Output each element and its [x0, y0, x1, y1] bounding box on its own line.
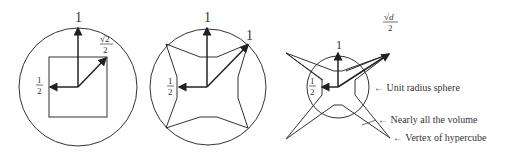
fig2-label-half-num: 1 — [168, 76, 173, 86]
fig1-label-diag-num: √2 — [100, 34, 109, 44]
annotation-vertex-of-hypercube: ← Vertex of hypercube — [393, 132, 487, 143]
diagram-svg: 1 √2 2 1 2 1 1 1 2 1 √d 2 1 2 ← Unit rad… — [0, 0, 518, 156]
fig1-label-top: 1 — [75, 10, 82, 25]
fig3-label-diag-den: 2 — [388, 23, 393, 33]
fig1-label-diag-den: 2 — [103, 45, 108, 55]
diagram-canvas: 1 √2 2 1 2 1 1 1 2 1 √d 2 1 2 ← Unit rad… — [0, 0, 518, 156]
fig3-label-half-num: 1 — [310, 76, 315, 86]
fig2-label-diag: 1 — [246, 28, 253, 43]
fig1-label-half-den: 2 — [37, 86, 42, 96]
fig1-label-half-num: 1 — [37, 75, 42, 85]
figure-hypercube-and-sphere — [286, 53, 390, 139]
annotation-nearly-all-volume: ← Nearly all the volume — [378, 114, 478, 125]
fig2-label-half-den: 2 — [168, 87, 173, 97]
fig3-label-half-den: 2 — [310, 87, 315, 97]
fig3-label-top: 1 — [336, 38, 342, 52]
annotation-unit-radius-sphere: ← Unit radius sphere — [374, 82, 460, 93]
fig2-label-top: 1 — [204, 10, 211, 25]
fig3-label-diag-num: √d — [384, 12, 394, 22]
